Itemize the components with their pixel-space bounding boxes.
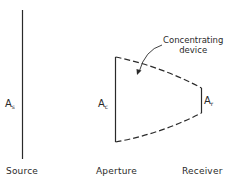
- concentrator-diagram: [0, 0, 229, 179]
- concentrating-device-callout: Concentrating device: [163, 35, 223, 55]
- source-area-subscript: s: [12, 103, 15, 110]
- aperture-area-subscript: c: [105, 103, 108, 110]
- callout-line-2: device: [163, 45, 223, 55]
- receiver-label: Receiver: [182, 166, 223, 176]
- source-area-label: As: [5, 98, 15, 112]
- aperture-area-label: Ac: [98, 98, 108, 112]
- callout-line-1: Concentrating: [163, 35, 223, 45]
- source-area-symbol: A: [5, 98, 12, 109]
- concentrator-top-wall: [116, 57, 202, 88]
- callout-arrow-line: [139, 45, 162, 72]
- receiver-area-subscript: r: [211, 100, 213, 107]
- concentrator-bottom-wall: [116, 113, 202, 142]
- receiver-area-symbol: A: [204, 95, 211, 106]
- aperture-area-symbol: A: [98, 98, 105, 109]
- aperture-label: Aperture: [96, 166, 137, 176]
- callout-arrow-head-icon: [137, 69, 142, 75]
- source-label: Source: [6, 166, 38, 176]
- receiver-area-label: Ar: [204, 95, 213, 109]
